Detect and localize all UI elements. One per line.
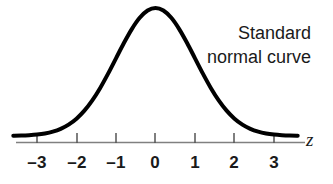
annotation-line-1: Standard (207, 22, 311, 46)
tick-label-neg1: –1 (96, 154, 136, 171)
tick-label-neg2: –2 (57, 154, 97, 171)
annotation-line-2: normal curve (207, 46, 311, 70)
x-axis-variable-label: z (306, 130, 313, 149)
tick-label-zero: 0 (135, 154, 175, 171)
x-axis-ticks (37, 133, 274, 143)
tick-label-pos1: 1 (175, 154, 215, 171)
tick-label-pos2: 2 (214, 154, 254, 171)
curve-annotation: Standard normal curve (207, 22, 311, 70)
tick-label-neg3: –3 (17, 154, 57, 171)
standard-normal-curve-figure: –3 –2 –1 0 1 2 3 z Standard normal curve (0, 0, 333, 184)
tick-label-pos3: 3 (254, 154, 294, 171)
